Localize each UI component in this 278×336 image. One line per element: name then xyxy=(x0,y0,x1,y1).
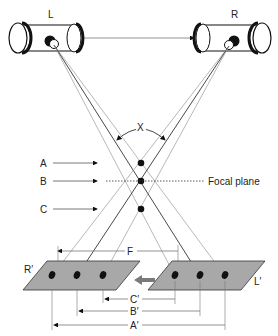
point-a-label: A xyxy=(40,158,47,169)
left-camera-icon xyxy=(9,23,83,53)
right-image-plane xyxy=(23,261,140,290)
a-prime-label: A′ xyxy=(130,320,139,331)
point-c-dot xyxy=(138,206,145,213)
right-image-plane-label: R′ xyxy=(24,264,33,275)
right-camera-icon xyxy=(194,23,271,53)
angle-label: X xyxy=(137,122,144,133)
shift-arrow-icon xyxy=(134,275,155,285)
right-camera-label: R xyxy=(231,9,238,20)
left-image-plane-label: L′ xyxy=(254,276,262,287)
left-image-plane xyxy=(148,261,265,290)
f-label: F xyxy=(127,246,133,257)
focal-plane-label: Focal plane xyxy=(208,176,260,187)
point-b-label: B xyxy=(40,176,47,187)
b-prime-label: B′ xyxy=(130,306,139,317)
c-prime-label: C′ xyxy=(130,294,139,305)
point-a-dot xyxy=(138,160,145,167)
stereo-camera-diagram: L R X A B C Focal plane F xyxy=(0,0,278,336)
left-camera-label: L xyxy=(48,9,54,20)
point-c-label: C xyxy=(40,204,47,215)
